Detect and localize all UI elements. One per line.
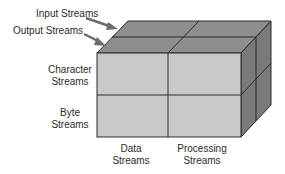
label-input-streams: Input Streams [36, 8, 98, 20]
label-byte-streams: Byte Streams [46, 107, 94, 131]
label-line: Streams [46, 76, 94, 88]
label-line: Streams [170, 155, 234, 167]
label-line: Streams [46, 119, 94, 131]
label-line: Byte [46, 107, 94, 119]
label-character-streams: Character Streams [46, 64, 94, 88]
label-processing-streams: Processing Streams [170, 143, 234, 167]
label-line: Processing [170, 143, 234, 155]
arrow-icon [84, 34, 106, 46]
label-line: Data [106, 143, 156, 155]
label-output-streams: Output Streams [13, 25, 83, 37]
label-line: Streams [106, 155, 156, 167]
label-line: Character [46, 64, 94, 76]
label-data-streams: Data Streams [106, 143, 156, 167]
